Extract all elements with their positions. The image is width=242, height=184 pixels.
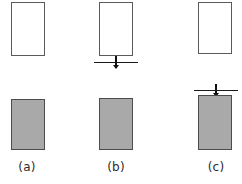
caption-c: (c) bbox=[196, 160, 236, 174]
open-rectangle-a bbox=[11, 2, 45, 56]
figure-canvas: (a) (b) (c) bbox=[0, 0, 242, 184]
open-rectangle-c bbox=[198, 2, 232, 54]
filled-rectangle-b bbox=[99, 98, 133, 150]
marker-arrow-head-b bbox=[113, 65, 119, 69]
caption-b: (b) bbox=[96, 160, 136, 174]
open-rectangle-b bbox=[99, 2, 133, 56]
filled-rectangle-a bbox=[11, 99, 45, 150]
load-arrow-marker-b bbox=[94, 56, 138, 68]
filled-rectangle-c bbox=[198, 95, 232, 150]
caption-a: (a) bbox=[7, 160, 47, 174]
